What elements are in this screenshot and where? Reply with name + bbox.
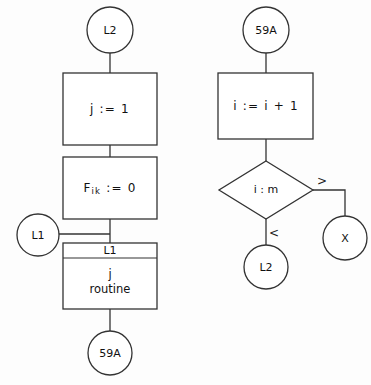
flowchart-canvas: L2 j := 1 Fik := 0 L1 bbox=[0, 0, 371, 385]
left-entry-connector-L2[interactable]: L2 bbox=[87, 7, 133, 53]
right-exit-connector-x-label: X bbox=[341, 232, 349, 245]
left-loopback-connector-label: L1 bbox=[31, 229, 44, 242]
left-process2-rest: := 0 bbox=[106, 181, 136, 195]
subroutine-line2-label: routine bbox=[90, 282, 131, 296]
left-process2-subscript: ik bbox=[92, 186, 102, 196]
right-entry-connector-59A[interactable]: 59A bbox=[243, 7, 289, 53]
left-process2-text-group: Fik := 0 bbox=[83, 181, 136, 196]
left-subroutine-box-j-routine[interactable]: L1 j routine bbox=[63, 243, 157, 309]
right-exit-connector-l2-label: L2 bbox=[259, 261, 272, 274]
flow-line-decision-greater-to-x bbox=[313, 190, 345, 216]
left-exit-connector-label: 59A bbox=[99, 347, 121, 360]
decision-label: i : m bbox=[254, 183, 278, 196]
left-exit-connector-59A[interactable]: 59A bbox=[88, 331, 132, 375]
right-process-box-increment-i[interactable]: i := i + 1 bbox=[218, 73, 313, 139]
branch-label-less: < bbox=[269, 226, 279, 240]
right-process-label: i := i + 1 bbox=[233, 99, 299, 113]
left-loopback-connector-L1[interactable]: L1 bbox=[17, 214, 59, 256]
branch-label-greater: > bbox=[317, 174, 327, 188]
left-process1-label: j := 1 bbox=[89, 102, 130, 116]
right-exit-connector-L2[interactable]: L2 bbox=[244, 245, 288, 289]
right-decision-diamond-compare[interactable]: i : m bbox=[219, 161, 313, 219]
right-exit-connector-X[interactable]: X bbox=[323, 216, 367, 260]
left-process-box-clear-f[interactable]: Fik := 0 bbox=[63, 157, 157, 219]
subroutine-line1-label: j bbox=[107, 267, 111, 281]
left-process2-base: F bbox=[83, 181, 91, 195]
right-entry-connector-label: 59A bbox=[255, 24, 277, 37]
flowchart-svg: L2 j := 1 Fik := 0 L1 bbox=[0, 0, 371, 385]
left-process-box-assign-j[interactable]: j := 1 bbox=[63, 73, 157, 145]
left-entry-connector-label: L2 bbox=[103, 24, 116, 37]
subroutine-header-label: L1 bbox=[103, 244, 116, 257]
